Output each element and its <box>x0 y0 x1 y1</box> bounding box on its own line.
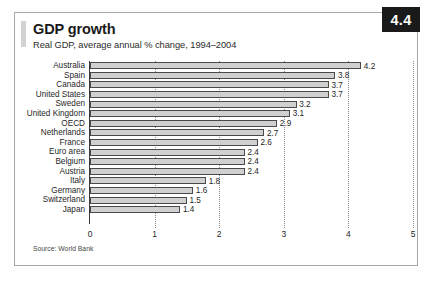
source-note: Source: World Bank <box>33 245 93 252</box>
category-label: Canada <box>15 80 85 90</box>
category-label: Netherlands <box>15 128 85 138</box>
category-label: Sweden <box>15 99 85 109</box>
bar-row: Italy1.8 <box>15 176 419 186</box>
bar <box>90 101 297 108</box>
category-label: Spain <box>15 71 85 81</box>
bar-row: Sweden3.2 <box>15 99 419 109</box>
category-label: United States <box>15 90 85 100</box>
category-label: Australia <box>15 61 85 71</box>
x-tick-label: 1 <box>152 229 157 239</box>
bar-row: OECD2.9 <box>15 119 419 129</box>
bar-wrapper <box>90 177 206 184</box>
bar-wrapper <box>90 168 245 175</box>
bar-wrapper <box>90 110 290 117</box>
bar-wrapper <box>90 129 264 136</box>
category-label: France <box>15 138 85 148</box>
bar-row: Belgium2.4 <box>15 157 419 167</box>
bar-row: Australia4.2 <box>15 61 419 71</box>
bar-row: Switzerland1.5 <box>15 195 419 205</box>
bar-row: United Kingdom3.1 <box>15 109 419 119</box>
bar <box>90 206 180 213</box>
bar-wrapper <box>90 101 297 108</box>
bar-wrapper <box>90 139 258 146</box>
bar-row: United States3.7 <box>15 90 419 100</box>
category-label: Germany <box>15 186 85 196</box>
bar-wrapper <box>90 62 361 69</box>
bar-rows: Australia4.2Spain3.8Canada3.7United Stat… <box>15 61 419 215</box>
page-title: GDP growth <box>33 21 116 37</box>
bar <box>90 187 193 194</box>
bar <box>90 197 187 204</box>
bar-row: France2.6 <box>15 138 419 148</box>
category-label: Austria <box>15 167 85 177</box>
bar-row: Germany1.6 <box>15 186 419 196</box>
bar <box>90 62 361 69</box>
bar-wrapper <box>90 72 335 79</box>
bar-row: Austria2.4 <box>15 167 419 177</box>
bar <box>90 149 245 156</box>
x-tick-label: 4 <box>346 229 351 239</box>
bar <box>90 72 335 79</box>
bar-row: Japan1.4 <box>15 205 419 215</box>
chart-figure: 4.4 GDP growth Real GDP, average annual … <box>14 12 418 266</box>
bar-wrapper <box>90 187 193 194</box>
category-label: Japan <box>15 205 85 215</box>
bar-row: Spain3.8 <box>15 71 419 81</box>
bar-row: Euro area2.4 <box>15 147 419 157</box>
x-tick-label: 3 <box>281 229 286 239</box>
bar-row: Canada3.7 <box>15 80 419 90</box>
bar <box>90 91 329 98</box>
bar <box>90 81 329 88</box>
bar <box>90 158 245 165</box>
bar <box>90 110 290 117</box>
bar-row: Netherlands2.7 <box>15 128 419 138</box>
bar-wrapper <box>90 81 329 88</box>
x-tick-label: 0 <box>88 229 93 239</box>
category-label: Italy <box>15 176 85 186</box>
category-label: United Kingdom <box>15 109 85 119</box>
chart-subtitle: Real GDP, average annual % change, 1994–… <box>33 40 236 50</box>
category-label: Belgium <box>15 157 85 167</box>
bar-wrapper <box>90 149 245 156</box>
bar-wrapper <box>90 197 187 204</box>
bar <box>90 168 245 175</box>
bar <box>90 120 277 127</box>
title-accent-mark <box>21 21 26 47</box>
bar <box>90 129 264 136</box>
category-label: OECD <box>15 119 85 129</box>
bar-wrapper <box>90 158 245 165</box>
bar-wrapper <box>90 120 277 127</box>
bar-wrapper <box>90 206 180 213</box>
x-tick-label: 2 <box>217 229 222 239</box>
category-label: Switzerland <box>15 195 85 205</box>
category-label: Euro area <box>15 147 85 157</box>
x-tick-label: 5 <box>411 229 416 239</box>
bar-value-label: 1.4 <box>183 205 194 215</box>
bar <box>90 177 206 184</box>
plot-area: Australia4.2Spain3.8Canada3.7United Stat… <box>15 59 419 239</box>
status-badge: 4.4 <box>382 7 420 32</box>
bar-wrapper <box>90 91 329 98</box>
bar <box>90 139 258 146</box>
